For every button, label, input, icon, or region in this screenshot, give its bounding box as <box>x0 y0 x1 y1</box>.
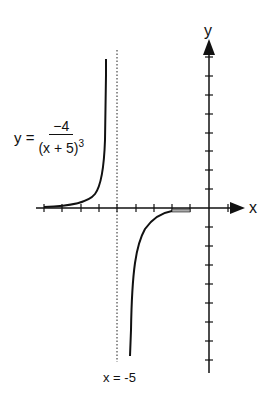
denominator-exponent: 3 <box>79 138 85 149</box>
y-axis-label: y <box>204 22 212 40</box>
denominator-base: (x + 5) <box>38 140 78 156</box>
equation-fraction: −4 (x + 5)3 <box>38 118 84 157</box>
x-axis-label: x <box>249 199 257 217</box>
equation-numerator: −4 <box>49 118 73 135</box>
curve-right-branch <box>130 211 190 356</box>
equation-lhs: y = <box>14 129 34 146</box>
equation-denominator: (x + 5)3 <box>38 135 84 157</box>
x-axis-arrow-icon <box>230 202 245 214</box>
y-axis-arrow-icon <box>203 39 215 55</box>
asymptote-label: x = -5 <box>103 370 136 385</box>
graph <box>0 0 269 400</box>
equation-label: y = −4 (x + 5)3 <box>14 118 84 157</box>
tail-segment <box>172 209 190 212</box>
